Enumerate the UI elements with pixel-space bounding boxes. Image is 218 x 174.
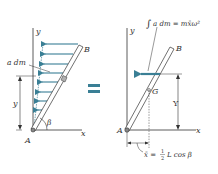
acceleration-arrows <box>38 44 78 110</box>
element-label: a dm <box>7 58 26 67</box>
equals-sign <box>88 84 100 93</box>
point-b-label: B <box>175 44 182 53</box>
rod-inertia-diagram: y x B A a dm y β <box>0 0 218 174</box>
Y-dimension-label: Y <box>172 99 179 108</box>
xbar-fraction-den: 2 <box>161 155 164 161</box>
xbar-label-lhs: x̄ = <box>144 151 156 159</box>
resultant-label: a dm = mx̄ω² <box>153 20 200 28</box>
resultant-leader <box>148 27 157 71</box>
pin-a <box>125 128 129 132</box>
x-axis-label: x <box>196 126 201 135</box>
integral-sign: ∫ <box>146 18 151 29</box>
point-g-label: G <box>152 87 159 96</box>
element-leader <box>29 65 50 72</box>
point-a-label: A <box>24 136 31 145</box>
point-b-label: B <box>83 45 90 54</box>
xbar-label-rhs: L cos β <box>166 151 192 159</box>
y-axis-label: y <box>35 27 41 36</box>
pin-a <box>31 128 35 132</box>
x-axis-label: x <box>81 129 86 138</box>
left-diagram: y x B A a dm y β <box>7 27 90 145</box>
xbar-fraction-num: 1 <box>161 148 164 154</box>
rod <box>31 45 83 131</box>
right-diagram: y x B A G Y ∫ a dm = mx̄ω² x̄ = 1 2 L co… <box>116 18 201 161</box>
y-axis-label: y <box>129 26 135 35</box>
angle-beta-label: β <box>46 118 52 127</box>
point-a-label: A <box>116 126 123 135</box>
y-dimension-label: y <box>12 99 18 108</box>
